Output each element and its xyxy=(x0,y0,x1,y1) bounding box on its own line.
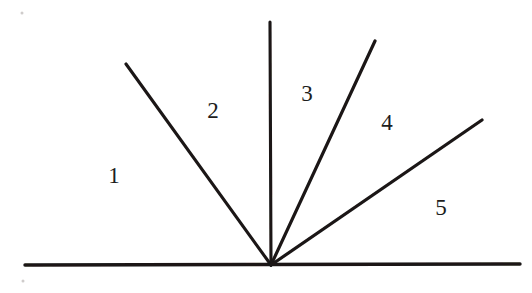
scan-speck-top-left xyxy=(21,12,24,15)
ray-between-3-and-4 xyxy=(271,41,375,265)
diagram-canvas xyxy=(0,0,532,293)
region-label-2: 2 xyxy=(207,99,219,122)
angle-diagram-figure: 1 2 3 4 5 xyxy=(0,0,532,293)
region-label-4: 4 xyxy=(381,111,393,134)
ink-strokes xyxy=(25,22,520,265)
region-label-5: 5 xyxy=(435,196,447,219)
ray-between-4-and-5 xyxy=(271,120,482,265)
region-label-3: 3 xyxy=(301,82,313,105)
ray-between-1-and-2 xyxy=(126,64,271,265)
ray-between-2-and-3 xyxy=(270,22,271,265)
region-label-1: 1 xyxy=(108,164,120,187)
scan-speck-bottom-left xyxy=(22,280,25,283)
